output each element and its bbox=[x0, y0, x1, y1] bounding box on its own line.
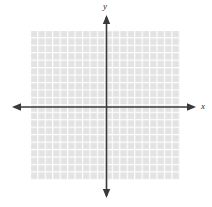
coordinate-grid-figure: x y bbox=[0, 0, 212, 207]
x-axis-right-arrowhead bbox=[187, 103, 196, 110]
x-axis-label: x bbox=[201, 102, 205, 111]
y-axis-label: y bbox=[103, 2, 107, 11]
x-axis-left-arrowhead bbox=[12, 103, 21, 110]
grid-lines bbox=[31, 31, 180, 180]
grid-area bbox=[31, 31, 180, 180]
y-axis-down-arrowhead bbox=[103, 189, 110, 198]
coordinate-plane-svg bbox=[0, 0, 212, 207]
y-axis-up-arrowhead bbox=[103, 15, 110, 24]
